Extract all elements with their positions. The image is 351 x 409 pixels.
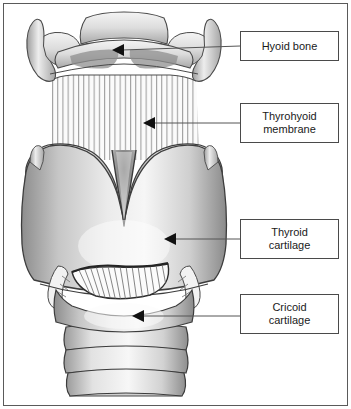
label-cricoid-cartilage-line2: cartilage <box>269 314 311 327</box>
label-hyoid-bone[interactable]: Hyoid bone <box>240 31 339 61</box>
label-cricoid-cartilage-line1: Cricoid <box>272 301 306 314</box>
larynx-anatomy-figure: Hyoid bone Thyrohyoid membrane Thyroid c… <box>0 0 351 409</box>
label-hyoid-bone-line1: Hyoid bone <box>262 40 318 53</box>
label-thyroid-cartilage-line1: Thyroid <box>271 226 308 239</box>
trachea-group <box>64 323 188 396</box>
cricothyroid-membrane-group <box>72 263 169 302</box>
label-thyroid-cartilage-line2: cartilage <box>269 239 311 252</box>
larynx-illustration <box>0 0 351 409</box>
label-thyrohyoid-membrane[interactable]: Thyrohyoid membrane <box>240 103 339 143</box>
label-thyroid-cartilage[interactable]: Thyroid cartilage <box>240 219 339 259</box>
label-thyrohyoid-membrane-line1: Thyrohyoid <box>262 110 316 123</box>
label-thyrohyoid-membrane-line2: membrane <box>263 123 316 136</box>
label-cricoid-cartilage[interactable]: Cricoid cartilage <box>240 294 339 334</box>
